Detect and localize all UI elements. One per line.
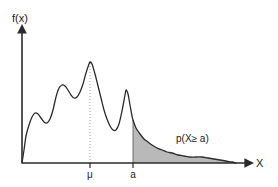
x-tick-label-mu: μ	[87, 169, 93, 180]
y-axis-label: f(x)	[12, 12, 28, 24]
probability-density-figure: f(x) X μ a p(X≥ a)	[0, 0, 278, 187]
x-tick-label-a: a	[130, 169, 136, 180]
x-axis-label: X	[256, 157, 264, 169]
density-plot-canvas: f(x) X μ a p(X≥ a)	[0, 0, 278, 187]
shaded-tail-region	[22, 62, 236, 163]
tail-probability-label: p(X≥ a)	[176, 133, 209, 144]
density-curve	[22, 62, 236, 163]
